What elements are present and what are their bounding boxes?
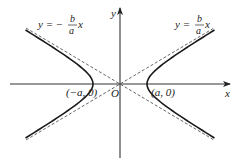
svg-text:x: x <box>204 18 210 30</box>
svg-text:a: a <box>196 25 201 36</box>
svg-text:a: a <box>69 25 74 36</box>
svg-text:y = −: y = − <box>37 18 63 30</box>
svg-text:b: b <box>70 13 75 24</box>
left-vertex-label: (−a, 0) <box>66 86 98 99</box>
svg-text:x: x <box>77 18 83 30</box>
svg-text:y =: y = <box>174 18 190 30</box>
hyperbola-diagram: y x O (−a, 0) (a, 0) y = − b a x y = b a… <box>0 0 243 161</box>
x-axis-label: x <box>224 87 230 99</box>
left-asymptote-equation: y = − b a x <box>37 13 83 36</box>
svg-text:b: b <box>197 13 202 24</box>
right-vertex-label: (a, 0) <box>151 86 175 99</box>
right-asymptote-equation: y = b a x <box>174 13 210 36</box>
y-axis-label: y <box>110 7 116 19</box>
origin-label: O <box>111 87 119 99</box>
